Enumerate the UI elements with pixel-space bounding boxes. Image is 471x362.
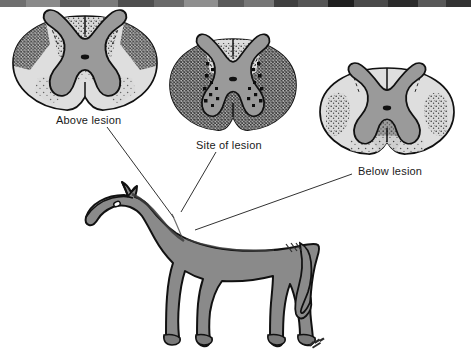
cord-section-below bbox=[320, 63, 454, 154]
central-canal-above bbox=[81, 55, 89, 60]
label-site-of-lesion: Site of lesion bbox=[196, 139, 262, 151]
horse-body bbox=[86, 182, 319, 346]
central-canal-site bbox=[229, 77, 237, 82]
cord-section-site bbox=[166, 34, 300, 135]
central-canal-below bbox=[383, 106, 391, 111]
spinal-cord-lesion-figure: Above lesion Site of lesion Below lesion bbox=[0, 0, 471, 362]
leader-line-site bbox=[181, 152, 216, 212]
cord-section-above bbox=[13, 10, 157, 110]
label-above-lesion: Above lesion bbox=[56, 114, 121, 126]
label-below-lesion: Below lesion bbox=[358, 165, 422, 177]
diagram-canvas bbox=[0, 0, 471, 362]
horse-illustration bbox=[86, 182, 325, 349]
horse-hooves bbox=[164, 335, 315, 345]
leader-line-below bbox=[195, 174, 352, 230]
